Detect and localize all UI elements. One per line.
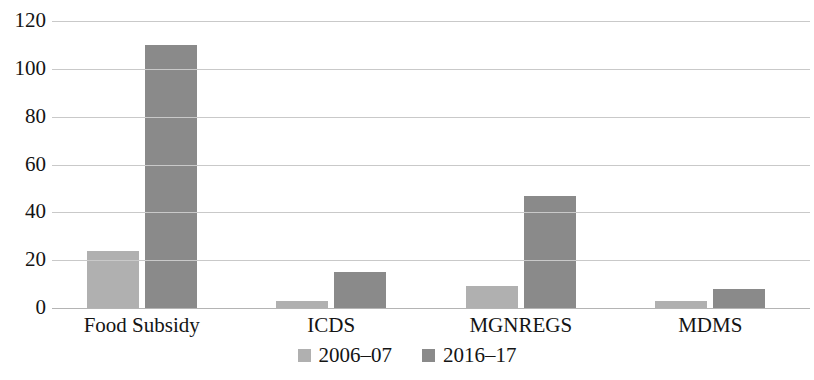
y-tick-label-20: 20 [0, 249, 46, 270]
y-axis: 020406080100120 [0, 21, 46, 308]
gridline-0 [52, 308, 810, 309]
legend-swatch-icon-2006–07 [298, 349, 311, 362]
legend-item-2016–17[interactable]: 2016–17 [422, 345, 517, 366]
y-tick-label-80: 80 [0, 106, 46, 127]
legend-swatch-icon-2016–17 [422, 349, 435, 362]
x-tick-label-mgnregs: MGNREGS [426, 312, 616, 338]
gridline-80 [52, 117, 810, 118]
y-tick-label-120: 120 [0, 10, 46, 31]
gridline-120 [52, 21, 810, 22]
y-tick-label-40: 40 [0, 201, 46, 222]
gridline-40 [52, 212, 810, 213]
bar-mdms-2006–07 [655, 301, 707, 308]
y-tick-label-0: 0 [0, 297, 46, 318]
bar-icds-2016–17 [334, 272, 386, 308]
legend-item-2006–07[interactable]: 2006–07 [298, 345, 393, 366]
x-tick-label-icds: ICDS [237, 312, 427, 338]
legend: 2006–072016–17 [0, 345, 814, 366]
plot-area [52, 21, 810, 308]
gridline-20 [52, 260, 810, 261]
x-tick-label-food-subsidy: Food Subsidy [47, 312, 237, 338]
legend-label-2016–17: 2016–17 [443, 345, 517, 366]
gridline-100 [52, 69, 810, 70]
bar-chart: 020406080100120 Food SubsidyICDSMGNREGSM… [0, 0, 814, 380]
y-tick-label-100: 100 [0, 58, 46, 79]
x-axis-category-labels: Food SubsidyICDSMGNREGSMDMS [52, 312, 810, 340]
gridline-60 [52, 165, 810, 166]
bar-mgnregs-2006–07 [466, 286, 518, 308]
bar-icds-2006–07 [276, 301, 328, 308]
y-tick-label-60: 60 [0, 154, 46, 175]
bar-food-subsidy-2016–17 [145, 45, 197, 308]
x-tick-label-mdms: MDMS [616, 312, 806, 338]
legend-label-2006–07: 2006–07 [319, 345, 393, 366]
bar-mdms-2016–17 [713, 289, 765, 308]
